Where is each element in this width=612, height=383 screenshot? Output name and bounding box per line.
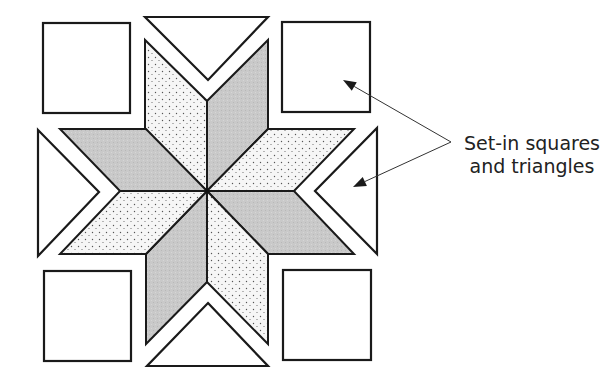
quilt-block-diagram [0,0,612,383]
annotation-line-2: and triangles [452,155,612,178]
corner-square-top-left [43,23,130,113]
star-center-point [205,189,209,193]
corner-square-bottom-left [44,271,131,361]
annotation-label: Set-in squares and triangles [452,132,612,178]
corner-square-bottom-right [283,270,371,360]
arrow-line-to-square [354,86,451,142]
annotation-line-1: Set-in squares [452,132,612,155]
corner-square-top-right [282,22,370,112]
